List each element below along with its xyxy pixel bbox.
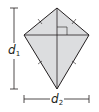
kite-shape bbox=[24, 8, 89, 89]
d2-label: d2 bbox=[50, 93, 64, 107]
d2-label-subscript: 2 bbox=[59, 99, 63, 107]
d1-label-main: d bbox=[8, 43, 16, 57]
d1-label-subscript: 1 bbox=[16, 50, 20, 58]
d2-label-main: d bbox=[51, 92, 59, 106]
d1-label: d1 bbox=[8, 43, 20, 59]
